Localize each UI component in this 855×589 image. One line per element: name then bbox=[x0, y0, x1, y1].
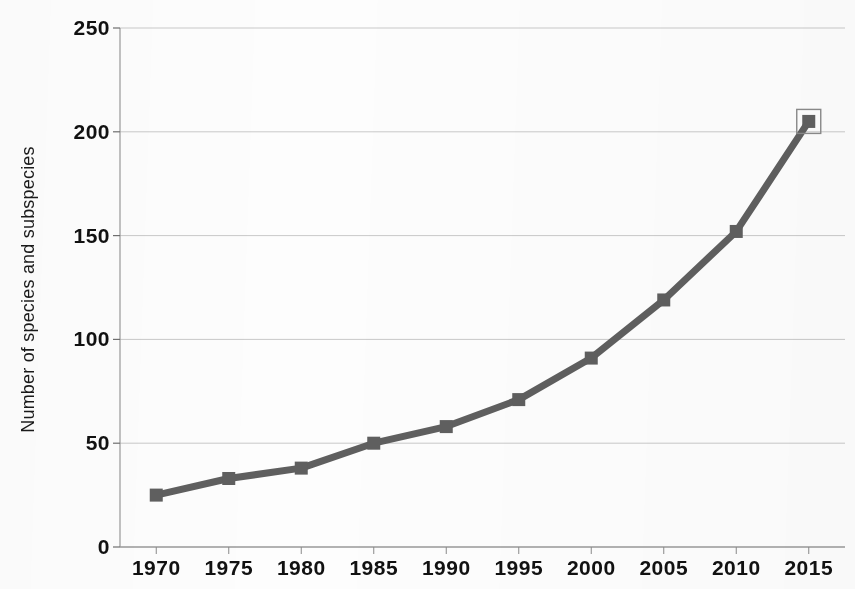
x-tick-label: 2015 bbox=[784, 556, 833, 580]
data-series-line[interactable] bbox=[156, 121, 809, 495]
data-point-marker[interactable] bbox=[802, 115, 815, 128]
data-point-marker[interactable] bbox=[440, 420, 453, 433]
data-point-marker[interactable] bbox=[150, 489, 163, 502]
line-chart: Number of species and subspecies 0501001… bbox=[0, 0, 855, 589]
x-tick-label: 1980 bbox=[277, 556, 326, 580]
x-tick-label: 1975 bbox=[204, 556, 253, 580]
data-point-marker[interactable] bbox=[367, 437, 380, 450]
plot-area bbox=[0, 0, 855, 589]
axis-lines bbox=[120, 28, 845, 547]
x-tick-label: 1995 bbox=[494, 556, 543, 580]
gridlines bbox=[120, 28, 845, 547]
data-point-marker[interactable] bbox=[512, 393, 525, 406]
data-point-marker[interactable] bbox=[222, 472, 235, 485]
x-tick-label: 1985 bbox=[349, 556, 398, 580]
data-point-marker[interactable] bbox=[657, 293, 670, 306]
data-point-marker[interactable] bbox=[585, 352, 598, 365]
x-tick-label: 2010 bbox=[712, 556, 761, 580]
data-point-marker[interactable] bbox=[295, 462, 308, 475]
data-point-marker[interactable] bbox=[730, 225, 743, 238]
x-tick-label: 2005 bbox=[639, 556, 688, 580]
y-axis-tick-marks bbox=[113, 28, 120, 547]
x-axis-tick-marks bbox=[156, 547, 809, 554]
x-tick-label: 1970 bbox=[132, 556, 181, 580]
x-tick-label: 1990 bbox=[422, 556, 471, 580]
x-tick-label: 2000 bbox=[567, 556, 616, 580]
